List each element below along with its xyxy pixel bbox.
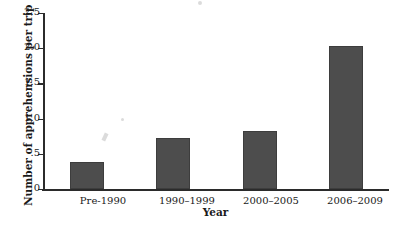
x-tick-label-1: 1990–1999 bbox=[159, 195, 215, 206]
y-axis-title: Number of apprehensions per trip bbox=[22, 6, 34, 206]
y-tick-label: 0 bbox=[34, 182, 40, 193]
y-tick-label: 2.0 bbox=[24, 41, 40, 52]
x-axis-title: Year bbox=[43, 206, 388, 218]
bar-1 bbox=[156, 138, 190, 189]
bar-2 bbox=[243, 131, 277, 189]
y-tick-label: 2.5 bbox=[24, 6, 40, 17]
x-tick-label-2: 2000–2005 bbox=[243, 195, 299, 206]
y-axis-line bbox=[43, 13, 45, 189]
x-tick-label-0: Pre-1990 bbox=[80, 195, 126, 206]
plot-area: 0 .5 1.0 1.5 2.0 2.5 Pr bbox=[43, 13, 388, 189]
bar-0 bbox=[70, 162, 104, 189]
x-axis-line bbox=[42, 189, 389, 191]
scan-artifact bbox=[198, 1, 202, 5]
y-tick-label: .5 bbox=[30, 147, 40, 158]
y-tick-label: 1.0 bbox=[24, 112, 40, 123]
scan-artifact bbox=[121, 118, 124, 121]
scan-artifact bbox=[101, 133, 108, 142]
y-tick-label: 1.5 bbox=[24, 76, 40, 87]
bar-3 bbox=[329, 46, 363, 189]
bar-chart: Number of apprehensions per trip 0 .5 1.… bbox=[0, 0, 400, 240]
x-tick-label-3: 2006–2009 bbox=[327, 195, 383, 206]
